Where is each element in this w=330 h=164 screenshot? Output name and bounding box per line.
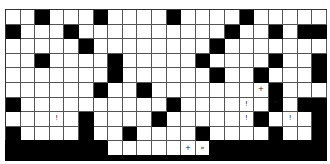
grid-cell[interactable] (79, 25, 94, 40)
grid-cell[interactable] (298, 10, 313, 25)
grid-cell[interactable] (137, 141, 152, 156)
grid-cell[interactable] (283, 10, 298, 25)
grid-cell[interactable] (64, 112, 79, 127)
grid-cell[interactable] (123, 39, 138, 54)
grid-cell[interactable] (137, 25, 152, 40)
grid-cell[interactable] (225, 10, 240, 25)
grid-cell[interactable] (123, 68, 138, 83)
grid-cell[interactable] (137, 127, 152, 142)
grid-cell[interactable] (225, 54, 240, 69)
grid-cell[interactable] (35, 68, 50, 83)
grid-cell[interactable] (312, 39, 327, 54)
grid-cell[interactable] (6, 83, 21, 98)
grid-cell[interactable] (240, 54, 255, 69)
grid-cell[interactable] (94, 98, 109, 113)
grid-cell[interactable] (196, 39, 211, 54)
grid-cell[interactable] (225, 112, 240, 127)
grid-cell[interactable] (210, 10, 225, 25)
grid-cell[interactable] (269, 112, 284, 127)
grid-cell[interactable] (269, 39, 284, 54)
grid-cell[interactable] (50, 25, 65, 40)
grid-cell[interactable] (108, 98, 123, 113)
grid-cell[interactable] (312, 83, 327, 98)
grid-cell[interactable] (283, 39, 298, 54)
grid-cell[interactable] (298, 112, 313, 127)
grid-cell[interactable]: ! (240, 112, 255, 127)
grid-cell[interactable] (196, 10, 211, 25)
grid-cell[interactable] (254, 98, 269, 113)
grid-cell[interactable] (123, 10, 138, 25)
grid-cell[interactable] (181, 112, 196, 127)
grid-cell[interactable] (196, 98, 211, 113)
grid-cell[interactable] (181, 68, 196, 83)
grid-cell[interactable] (108, 25, 123, 40)
grid-cell[interactable] (79, 54, 94, 69)
grid-cell[interactable] (123, 25, 138, 40)
grid-cell[interactable] (312, 10, 327, 25)
grid-cell[interactable] (21, 83, 36, 98)
grid-cell[interactable] (137, 68, 152, 83)
grid-cell[interactable] (167, 112, 182, 127)
grid-cell[interactable] (108, 83, 123, 98)
grid-cell[interactable] (210, 112, 225, 127)
grid-cell[interactable] (21, 68, 36, 83)
grid-cell[interactable] (94, 68, 109, 83)
grid-cell[interactable] (196, 68, 211, 83)
grid-cell[interactable] (240, 83, 255, 98)
grid-cell[interactable] (6, 39, 21, 54)
grid-cell[interactable] (196, 112, 211, 127)
grid-cell[interactable] (123, 54, 138, 69)
grid-cell[interactable] (50, 98, 65, 113)
grid-cell[interactable] (6, 68, 21, 83)
grid-cell[interactable] (137, 54, 152, 69)
grid-cell[interactable] (79, 68, 94, 83)
grid-cell[interactable] (196, 25, 211, 40)
grid-cell[interactable] (167, 68, 182, 83)
grid-cell[interactable] (152, 54, 167, 69)
grid-cell[interactable] (283, 54, 298, 69)
grid-cell[interactable] (137, 10, 152, 25)
grid-cell[interactable] (240, 25, 255, 40)
grid-cell[interactable] (21, 54, 36, 69)
grid-cell[interactable] (181, 127, 196, 142)
grid-cell[interactable] (64, 39, 79, 54)
grid-cell[interactable] (64, 98, 79, 113)
grid-cell[interactable] (21, 25, 36, 40)
grid-cell[interactable] (21, 112, 36, 127)
grid-cell[interactable] (181, 25, 196, 40)
grid-cell[interactable] (225, 39, 240, 54)
grid-cell[interactable] (152, 68, 167, 83)
grid-cell[interactable] (108, 39, 123, 54)
grid-cell[interactable]: ! (240, 98, 255, 113)
grid-cell[interactable] (225, 83, 240, 98)
grid-cell[interactable] (6, 54, 21, 69)
grid-cell[interactable] (94, 25, 109, 40)
grid-cell[interactable] (108, 141, 123, 156)
grid-cell[interactable]: + (254, 83, 269, 98)
grid-cell[interactable] (181, 83, 196, 98)
grid-cell[interactable] (35, 25, 50, 40)
grid-cell[interactable] (225, 68, 240, 83)
grid-cell[interactable] (108, 10, 123, 25)
grid-cell[interactable] (298, 39, 313, 54)
grid-cell[interactable] (181, 98, 196, 113)
grid-cell[interactable] (50, 10, 65, 25)
grid-cell[interactable] (167, 54, 182, 69)
grid-cell[interactable] (21, 98, 36, 113)
grid-cell[interactable] (210, 98, 225, 113)
grid-cell[interactable] (167, 127, 182, 142)
grid-cell[interactable] (108, 127, 123, 142)
grid-cell[interactable] (50, 54, 65, 69)
grid-cell[interactable] (123, 112, 138, 127)
grid-cell[interactable] (64, 10, 79, 25)
grid-cell[interactable] (254, 39, 269, 54)
grid-cell[interactable] (298, 54, 313, 69)
grid-cell[interactable] (94, 39, 109, 54)
grid-cell[interactable] (210, 83, 225, 98)
grid-cell[interactable] (196, 83, 211, 98)
grid-cell[interactable] (50, 68, 65, 83)
grid-cell[interactable] (108, 112, 123, 127)
grid-cell[interactable] (167, 83, 182, 98)
grid-cell[interactable] (123, 141, 138, 156)
grid-cell[interactable] (152, 25, 167, 40)
